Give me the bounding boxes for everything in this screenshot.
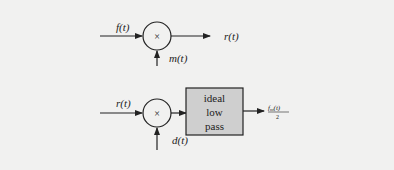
multiply-icon: × bbox=[154, 31, 160, 42]
output-denominator: 2 bbox=[276, 114, 279, 120]
block-diagram: f(t) × r(t) m(t) r(t) × ideal low pass f… bbox=[0, 0, 394, 170]
modulator: f(t) × r(t) m(t) bbox=[100, 21, 239, 66]
output-numerator: fm(t) bbox=[268, 104, 281, 112]
multiply-icon: × bbox=[154, 108, 160, 119]
output-fraction: fm(t) 2 bbox=[268, 104, 289, 120]
carrier-label: d(t) bbox=[172, 134, 188, 147]
carrier-label: m(t) bbox=[169, 52, 188, 65]
output-label: r(t) bbox=[224, 30, 239, 43]
filter-label-line-1: ideal bbox=[204, 92, 225, 104]
demodulator: r(t) × ideal low pass fm(t) 2 d(t) bbox=[100, 88, 289, 150]
input-label: r(t) bbox=[116, 97, 131, 110]
input-label: f(t) bbox=[116, 21, 130, 34]
filter-label-line-2: low bbox=[206, 106, 223, 118]
filter-label-line-3: pass bbox=[205, 120, 224, 132]
